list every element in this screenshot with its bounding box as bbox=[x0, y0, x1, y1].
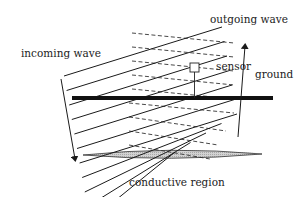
incoming-wavefront-line bbox=[72, 71, 230, 120]
outgoing-wavefront-line bbox=[129, 117, 226, 131]
sensor-label: sensor bbox=[216, 60, 252, 72]
outgoing-wavefront-line bbox=[129, 131, 218, 145]
incoming-wave-label: incoming wave bbox=[21, 47, 101, 59]
outgoing-wavefront-line bbox=[132, 75, 234, 85]
wave-diagram: incoming wave outgoing wave sensor groun… bbox=[0, 0, 304, 197]
outgoing-wavefront-line bbox=[132, 33, 234, 43]
incoming-wavefront-line bbox=[77, 100, 235, 149]
ground-label: ground bbox=[255, 68, 294, 80]
outgoing-wave-label: outgoing wave bbox=[210, 13, 288, 25]
incoming-wavefront-line bbox=[90, 152, 175, 197]
outgoing-wavefront-line bbox=[132, 47, 234, 57]
incoming-wavefront-line bbox=[74, 85, 232, 134]
sensor-box bbox=[190, 63, 199, 72]
conductive-region-label: conductive region bbox=[129, 176, 225, 188]
